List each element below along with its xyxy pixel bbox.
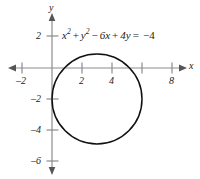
coordinate-plane bbox=[0, 0, 200, 179]
x-axis-left-arrow bbox=[8, 65, 16, 72]
circle-graph-figure: –2 2 4 8 2 –2 –4 –6 y x x2+y2−6x+4y=−4 bbox=[0, 0, 200, 179]
x-axis-right-arrow bbox=[179, 65, 187, 72]
x-tick-label-8: 8 bbox=[169, 76, 174, 86]
x-tick-label--2: –2 bbox=[16, 76, 26, 86]
eq-plus-2: + bbox=[112, 29, 118, 41]
y-tick-label--4: –4 bbox=[31, 125, 41, 135]
eq-equals: = bbox=[133, 29, 139, 41]
eq-y-exponent: 2 bbox=[86, 27, 90, 36]
y-axis-label: y bbox=[49, 3, 53, 13]
y-tick-label--6: –6 bbox=[31, 156, 41, 166]
eq-minus-1: − bbox=[92, 29, 98, 41]
x-tick-label-4: 4 bbox=[109, 76, 114, 86]
eq-term-6x: 6x bbox=[100, 29, 110, 41]
y-axis-top-arrow bbox=[49, 13, 56, 21]
eq-term-4y: 4y bbox=[120, 29, 130, 41]
eq-rhs: −4 bbox=[143, 29, 155, 41]
eq-plus-1: + bbox=[73, 29, 79, 41]
x-tick-label-2: 2 bbox=[79, 76, 84, 86]
equation-annotation: x2+y2−6x+4y=−4 bbox=[62, 29, 157, 41]
y-tick-label--2: –2 bbox=[31, 94, 41, 104]
y-tick-label-2: 2 bbox=[36, 31, 41, 41]
x-axis bbox=[8, 65, 187, 72]
y-axis-bottom-arrow bbox=[49, 167, 56, 175]
eq-x-exponent: 2 bbox=[67, 27, 71, 36]
x-axis-label: x bbox=[189, 61, 193, 71]
